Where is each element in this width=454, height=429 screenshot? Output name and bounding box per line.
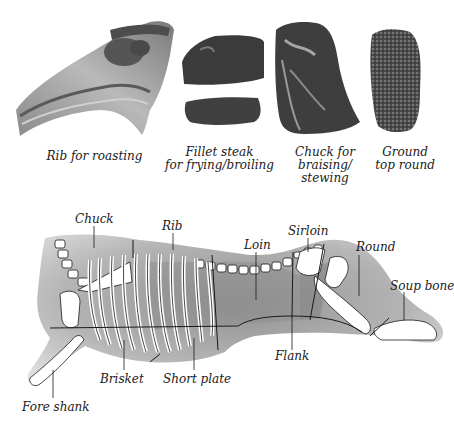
label-sirloin: Sirloin	[288, 225, 328, 238]
caption-rib-roast: Rib for roasting	[32, 150, 157, 163]
label-loin: Loin	[244, 239, 271, 252]
chuck-steak-photo	[275, 22, 360, 134]
label-chuck: Chuck	[75, 213, 114, 226]
label-round: Round	[356, 241, 395, 254]
label-flank: Flank	[275, 350, 309, 363]
caption-chuck: Chuck for braising/ stewing	[290, 146, 360, 185]
ground-top-round-photo	[370, 29, 420, 132]
label-rib: Rib	[162, 220, 183, 233]
caption-fillet-steak: Fillet steak for frying/broiling	[162, 146, 277, 172]
caption-ground-top-round: Ground top round	[370, 146, 440, 172]
label-brisket: Brisket	[100, 373, 144, 386]
label-short-plate: Short plate	[163, 373, 231, 386]
rib-roast-photo	[16, 21, 174, 136]
label-fore-shank: Fore shank	[22, 401, 90, 414]
fillet-steak-photo	[182, 35, 264, 125]
humerus-bone	[60, 291, 80, 328]
label-soup-bone: Soup bone	[390, 280, 454, 293]
